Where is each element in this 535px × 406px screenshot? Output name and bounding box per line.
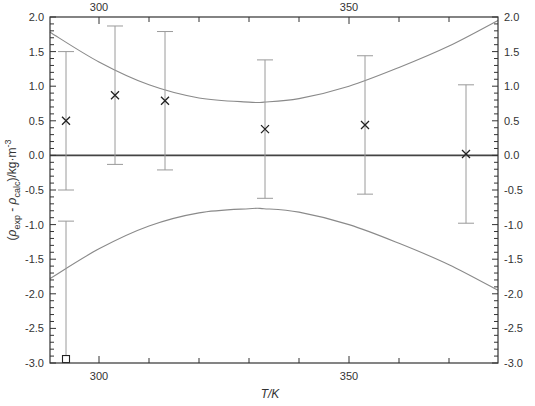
y-tick-label: -2.0	[504, 288, 523, 300]
upper-uncertainty-band	[50, 20, 498, 102]
y-tick-label: -0.5	[504, 184, 523, 196]
minor-ticks	[50, 24, 498, 356]
y-tick-label: 2.0	[29, 11, 44, 23]
y-tick-label: -2.5	[25, 322, 44, 334]
y-tick-labels-left: 2.01.51.00.50.0-0.5-1.0-1.5-2.0-2.5-3.0	[25, 11, 44, 369]
y-tick-labels-right: 2.01.51.00.50.0-0.5-1.0-1.5-2.0-2.5-3.0	[504, 11, 523, 369]
square-marker	[63, 356, 70, 363]
data-markers	[62, 91, 470, 362]
y-tick-label: 2.0	[504, 11, 519, 23]
y-tick-label: 1.5	[29, 46, 44, 58]
y-tick-label: 0.0	[504, 149, 519, 161]
y-tick-label: 0.0	[29, 149, 44, 161]
chart: 2.01.51.00.50.0-0.5-1.0-1.5-2.0-2.5-3.0 …	[0, 0, 535, 406]
y-tick-label: 0.5	[504, 115, 519, 127]
major-ticks	[50, 17, 498, 363]
error-bars	[58, 26, 474, 360]
y-tick-label: 1.0	[504, 80, 519, 92]
y-tick-label: 1.0	[29, 80, 44, 92]
x-tick-label-bottom: 350	[340, 370, 358, 382]
y-tick-label: -1.5	[504, 253, 523, 265]
x-tick-label-top: 350	[340, 1, 358, 13]
y-tick-label: -2.0	[25, 288, 44, 300]
x-tick-label-top: 300	[90, 1, 108, 13]
x-tick-label-bottom: 300	[90, 370, 108, 382]
plot-frame	[50, 17, 498, 363]
y-axis-title: (ρexp - ρcalc)/kg·m-3	[3, 140, 22, 241]
y-tick-label: -1.0	[25, 219, 44, 231]
y-tick-label: 0.5	[29, 115, 44, 127]
x-axis-title: T/K	[261, 387, 281, 401]
y-tick-label: -3.0	[25, 357, 44, 369]
lower-uncertainty-band	[50, 208, 498, 290]
y-tick-label: -1.0	[504, 219, 523, 231]
y-tick-label: -2.5	[504, 322, 523, 334]
y-tick-label: -3.0	[504, 357, 523, 369]
y-tick-label: 1.5	[504, 46, 519, 58]
x-tick-labels: 300300350350	[90, 1, 358, 382]
y-tick-label: -1.5	[25, 253, 44, 265]
y-tick-label: -0.5	[25, 184, 44, 196]
